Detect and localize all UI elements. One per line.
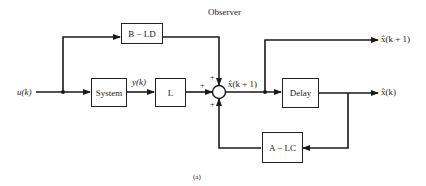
- block-delay: Delay: [282, 78, 319, 108]
- signal-lines: [0, 0, 426, 186]
- sign-left: +: [200, 82, 205, 90]
- block-b-minus-ld: B − LD: [121, 23, 163, 44]
- block-l: L: [155, 78, 186, 107]
- block-a-minus-lc-label: A − LC: [269, 143, 296, 153]
- diagram-title: Observer: [208, 8, 241, 17]
- output-xhat-next-label: x̂(k + 1): [381, 35, 410, 44]
- block-l-label: L: [168, 88, 174, 98]
- figure-caption: (a): [193, 174, 201, 181]
- sign-bottom: +: [210, 101, 215, 109]
- input-label: u(k): [17, 88, 32, 97]
- summing-junction: [213, 86, 226, 99]
- sign-top: +: [210, 74, 215, 82]
- signal-xhat-next-mid-label: x̂(k + 1): [228, 80, 257, 89]
- block-system-label: System: [96, 88, 123, 98]
- block-system: System: [91, 78, 127, 107]
- block-delay-label: Delay: [290, 88, 312, 98]
- block-a-minus-lc: A − LC: [262, 132, 303, 163]
- block-b-minus-ld-label: B − LD: [128, 29, 156, 39]
- signal-y-label: y(k): [132, 78, 146, 87]
- output-xhat-label: x̂(k): [381, 88, 396, 97]
